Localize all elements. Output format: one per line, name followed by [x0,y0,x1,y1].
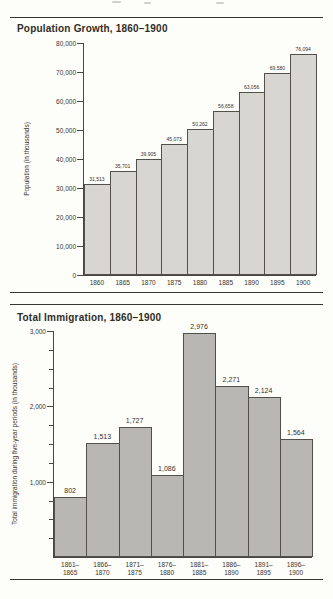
x-axis-tick-label-line: 1885 [190,569,208,577]
x-axis-tick-label-line: 1881– [190,561,208,569]
y-axis-tick-label: 50,000 [56,127,76,134]
x-axis-tick-label-line: 1900 [296,279,310,287]
x-axis-tick-label: 1871–1875 [126,561,144,577]
y-axis-tick [47,331,53,332]
bar [110,171,137,275]
x-axis-tick-label: 1876–1880 [158,561,176,577]
x-axis-tick-label-line: 1895 [270,279,284,287]
bar-value-label: 1,564 [287,429,305,436]
x-axis-tick-label: 1890 [244,279,258,287]
y-axis-tick-label: 60,000 [56,98,76,105]
bar [239,92,265,275]
bar [161,144,188,275]
x-axis-tick-label-line: 1865 [115,279,129,287]
x-axis-tick-label: 1886–1890 [222,561,240,577]
x-axis-tick-label-line: 1896– [287,561,305,569]
bar-value-label: 1,513 [94,433,112,440]
y-axis-tick [77,217,83,218]
bar [187,129,214,275]
bar-value-label: 802 [64,487,76,494]
chart-title: Population Growth, 1860–1900 [17,23,168,34]
x-axis-tick-label-line: 1885 [219,279,233,287]
y-axis-minor-tick [49,350,53,351]
y-axis-tick [77,275,83,276]
x-axis-tick-label-line: 1886– [222,561,240,569]
y-axis-tick [77,246,83,247]
cropped-text-artifact [112,1,121,3]
x-axis-tick-label-line: 1880 [193,279,207,287]
x-axis-tick-label-line: 1875 [167,279,181,287]
y-axis-tick [77,159,83,160]
plot-area: 1,0002,0003,0008021861–18651,5131866–187… [53,331,312,558]
x-axis-tick-label-line: 1870 [141,279,155,287]
y-axis-tick-label: 0 [72,272,76,279]
x-axis-tick-label-line: 1900 [287,569,305,577]
bar [119,427,152,557]
population-growth-chart: Population Growth, 1860–1900 Population … [10,17,323,293]
x-axis-tick-label: 1861–1865 [61,561,79,577]
scanned-page: Population Growth, 1860–1900 Population … [0,0,333,599]
bar-value-label: 35,701 [115,163,130,169]
y-axis-tick [77,130,83,131]
y-axis-tick-label: 2,000 [30,403,46,410]
bar [280,439,313,557]
x-axis-tick-label: 1880 [193,279,207,287]
x-axis-tick-label-line: 1866– [93,561,111,569]
bar-value-label: 69,580 [270,65,285,71]
bar-value-label: 1,086 [158,465,176,472]
total-immigration-chart: Total Immigration, 1860–1900 Total immig… [10,304,323,580]
y-axis-label: Total immigration during five-year perio… [11,363,18,525]
x-axis-tick-label-line: 1880 [158,569,176,577]
x-axis-tick-label: 1885 [219,279,233,287]
y-axis-minor-tick [49,369,53,370]
cropped-text-artifact [144,2,151,4]
bar [151,475,184,557]
bar-value-label: 63,056 [244,84,259,90]
bar-value-label: 56,658 [218,103,233,109]
x-axis-tick-label-line: 1871– [126,561,144,569]
bar [86,443,120,557]
cropped-text-artifact [216,2,224,4]
bar [183,333,216,557]
bar [248,397,281,557]
y-axis-label: Population (in thousands) [23,122,30,196]
y-axis-minor-tick [49,519,53,520]
x-axis-tick-label: 1895 [270,279,284,287]
y-axis-tick-label: 70,000 [56,69,76,76]
y-axis-tick-label: 30,000 [56,185,76,192]
y-axis-tick-label: 80,000 [56,40,76,47]
bar-value-label: 76,094 [295,46,310,52]
x-axis-tick-label-line: 1860 [90,279,104,287]
chart-title: Total Immigration, 1860–1900 [17,312,161,323]
y-axis-tick [77,72,83,73]
bar [136,159,162,275]
bar [290,54,317,275]
x-axis-tick-label: 1866–1870 [93,561,111,577]
bar-value-label: 45,073 [167,136,182,142]
y-axis-minor-tick [49,538,53,539]
bar [213,111,240,275]
y-axis-tick-label: 3,000 [30,328,46,335]
y-axis-tick [47,482,53,483]
bar [264,73,291,275]
x-axis-tick-label-line: 1891– [255,561,273,569]
bar-value-label: 39,905 [141,151,156,157]
x-axis-tick-label: 1865 [115,279,129,287]
bar-value-label: 1,727 [126,417,144,424]
x-axis-tick-label-line: 1890 [222,569,240,577]
y-axis-tick [47,406,53,407]
bar-value-label: 2,271 [223,376,241,383]
plot-area: 010,00020,00030,00040,00050,00060,00070,… [83,43,316,276]
x-axis-tick-label: 1900 [296,279,310,287]
x-axis-tick-label: 1860 [90,279,104,287]
bar-value-label: 31,513 [89,176,104,182]
bar [84,184,111,275]
y-axis-minor-tick [49,501,53,502]
x-axis-tick-label-line: 1870 [93,569,111,577]
y-axis-tick-label: 40,000 [56,156,76,163]
y-axis-tick-label: 10,000 [56,243,76,250]
x-axis-tick-label-line: 1890 [244,279,258,287]
y-axis-tick-label: 1,000 [30,478,46,485]
y-axis-tick [77,188,83,189]
y-axis-minor-tick [49,463,53,464]
